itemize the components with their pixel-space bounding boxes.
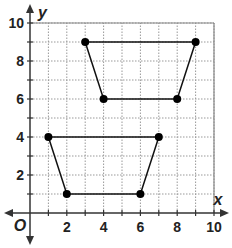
vertex-point (155, 133, 163, 141)
vertex-point (63, 190, 71, 198)
x-tick-label: 2 (63, 219, 71, 235)
y-tick-label: 10 (8, 15, 24, 31)
vertex-point (81, 38, 89, 46)
x-tick-label: 4 (100, 219, 108, 235)
y-axis-label: y (37, 4, 48, 21)
origin-label: O (14, 217, 27, 234)
y-tick-label: 2 (16, 167, 24, 183)
x-tick-label: 10 (206, 219, 222, 235)
vertex-point (192, 38, 200, 46)
vertex-point (44, 133, 52, 141)
x-axis-right-arrow-icon (220, 209, 229, 217)
y-tick-label: 8 (16, 53, 24, 69)
vertex-point (173, 95, 181, 103)
y-tick-label: 6 (16, 91, 24, 107)
vertex-point (100, 95, 108, 103)
grid (30, 23, 214, 213)
x-axis-left-arrow-icon (4, 209, 13, 217)
y-axis-up-arrow-icon (26, 4, 34, 13)
x-axis-label: x (213, 191, 224, 208)
y-tick-label: 4 (16, 129, 24, 145)
coordinate-plane: 246810246810yxO (0, 0, 232, 248)
x-tick-label: 8 (173, 219, 181, 235)
tick-labels: 246810246810yxO (8, 4, 223, 235)
x-tick-label: 6 (137, 219, 145, 235)
vertex-point (136, 190, 144, 198)
y-axis-down-arrow-icon (26, 236, 34, 245)
